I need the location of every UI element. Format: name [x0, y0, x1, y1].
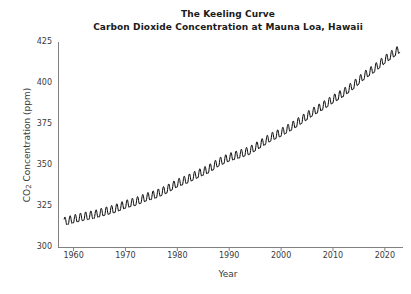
y-tick-label: 300	[22, 243, 52, 251]
x-tick-label: 1980	[157, 252, 197, 260]
x-tick-label: 1990	[209, 252, 249, 260]
plot-area	[58, 42, 398, 247]
chart-title: The Keeling Curve Carbon Dioxide Concent…	[58, 8, 398, 34]
y-tick-label: 425	[22, 38, 52, 46]
chart-title-line-2: Carbon Dioxide Concentration at Mauna Lo…	[58, 21, 398, 34]
plot-svg	[58, 42, 408, 252]
keeling-curve-line	[64, 47, 399, 225]
x-tick-label: 1970	[105, 252, 145, 260]
x-axis-label: Year	[58, 269, 398, 279]
x-tick-label: 2020	[365, 252, 405, 260]
x-tick-label: 1960	[54, 252, 94, 260]
chart-title-line-1: The Keeling Curve	[58, 8, 398, 21]
x-axis-tick-labels: 1960197019801990200020102020	[58, 252, 408, 264]
y-tick-label: 325	[22, 202, 52, 210]
chart-figure: The Keeling Curve Carbon Dioxide Concent…	[0, 0, 411, 294]
x-tick-label: 2010	[313, 252, 353, 260]
axis-spines	[58, 42, 403, 248]
x-tick-label: 2000	[261, 252, 301, 260]
y-axis-tick-labels: 300325350375400425	[18, 42, 52, 247]
y-tick-label: 375	[22, 120, 52, 128]
y-tick-label: 350	[22, 161, 52, 169]
y-tick-label: 400	[22, 79, 52, 87]
